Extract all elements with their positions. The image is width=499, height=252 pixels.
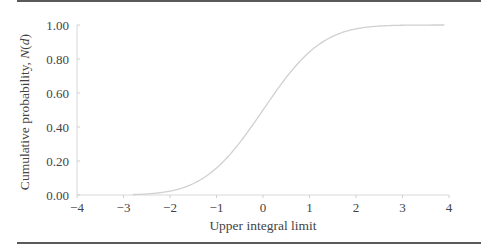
y-tick-label: 0.60 [46,86,69,101]
cdf-curve [133,25,445,195]
x-axis-title: Upper integral limit [209,218,316,233]
x-tick-label: 0 [260,200,267,215]
x-axis-ticks: −4−3−2−101234 [70,195,453,215]
y-tick-label: 0.80 [46,52,69,67]
x-tick-label: 4 [446,200,453,215]
y-tick-label: 0.20 [46,154,69,169]
cdf-chart: −4−3−2−101234 0.000.200.400.600.801.00 U… [0,0,499,252]
x-tick-label: −2 [163,200,177,215]
x-tick-label: −3 [117,200,131,215]
y-tick-label: 0.40 [46,120,69,135]
y-axis-ticks: 0.000.200.400.600.801.00 [46,18,80,203]
y-tick-label: 1.00 [46,18,69,33]
x-tick-label: −1 [210,200,224,215]
x-tick-label: 1 [306,200,313,215]
y-tick-label: 0.00 [46,188,69,203]
x-tick-label: −4 [70,200,84,215]
y-axis-title: Cumulative probability, N(d) [17,34,32,190]
x-tick-label: 2 [353,200,360,215]
x-tick-label: 3 [399,200,406,215]
